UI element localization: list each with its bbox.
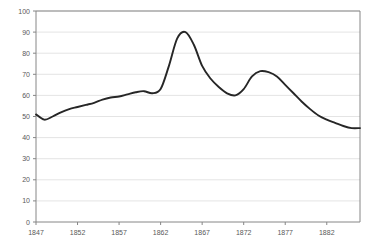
y-axis-tick-label: 20 xyxy=(22,176,30,183)
y-axis-tick-label: 100 xyxy=(18,8,30,15)
x-axis-tick-labels: 18471852185718621867187218771882 xyxy=(28,229,334,236)
x-axis-tick-label: 1857 xyxy=(111,229,127,236)
y-axis-tick-label: 70 xyxy=(22,71,30,78)
y-axis-tick-labels: 0102030405060708090100 xyxy=(18,8,30,226)
series-line-1 xyxy=(36,32,360,128)
data-series-group xyxy=(36,32,360,128)
x-axis-tick-label: 1877 xyxy=(277,229,293,236)
y-axis-tick-label: 30 xyxy=(22,155,30,162)
y-axis-tick-label: 60 xyxy=(22,92,30,99)
x-axis-tick-label: 1867 xyxy=(194,229,210,236)
x-axis-tick-label: 1882 xyxy=(319,229,335,236)
y-axis-tick-label: 90 xyxy=(22,29,30,36)
x-axis-tick-label: 1852 xyxy=(70,229,86,236)
y-axis-tick-label: 0 xyxy=(26,219,30,226)
y-axis-tick-label: 40 xyxy=(22,134,30,141)
y-axis-tick-label: 10 xyxy=(22,197,30,204)
x-axis-tick-label: 1872 xyxy=(236,229,252,236)
line-chart: 0102030405060708090100 18471852185718621… xyxy=(0,0,376,248)
x-axis-tick-label: 1862 xyxy=(153,229,169,236)
x-axis-tick-label: 1847 xyxy=(28,229,44,236)
chart-container: 0102030405060708090100 18471852185718621… xyxy=(0,0,376,248)
y-axis-tick-label: 50 xyxy=(22,113,30,120)
y-axis-tick-label: 80 xyxy=(22,50,30,57)
